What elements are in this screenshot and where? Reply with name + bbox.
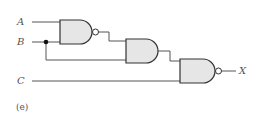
wire-g2-to-g3: [158, 51, 180, 61]
input-label-a: A: [17, 17, 24, 27]
nand-gate-1: [60, 20, 99, 44]
figure-caption: (e): [16, 102, 28, 112]
output-label-x: X: [239, 66, 246, 76]
junction-dot: [44, 40, 49, 45]
wire-g1-to-g2: [99, 32, 126, 41]
wire-b-branch: [46, 42, 126, 60]
logic-circuit: [0, 0, 262, 122]
input-label-c: C: [17, 76, 25, 86]
and-gate-2: [126, 39, 158, 63]
input-label-b: B: [17, 37, 24, 47]
nand-gate-3: [180, 59, 222, 83]
